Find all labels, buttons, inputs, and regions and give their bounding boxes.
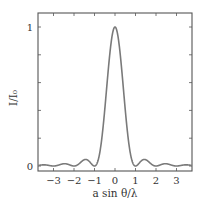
- x-tick-label: 0: [112, 175, 118, 186]
- y-axis-label: I/I₀: [7, 90, 19, 106]
- axis-ticks: [38, 13, 192, 171]
- x-tick-label: 1: [132, 175, 138, 186]
- x-tick-label: 2: [153, 175, 159, 186]
- y-tick-labels: 01: [27, 22, 33, 172]
- x-tick-label: −1: [87, 175, 102, 186]
- x-tick-label: 3: [173, 175, 179, 186]
- plot-frame: [38, 13, 192, 171]
- plot-border: [38, 13, 192, 171]
- y-tick-label: 0: [27, 161, 33, 172]
- y-tick-label: 1: [27, 22, 33, 33]
- intensity-curve: [38, 27, 192, 166]
- x-tick-labels: −3−2−10123: [46, 175, 180, 186]
- x-tick-label: −3: [46, 175, 61, 186]
- x-axis-label: a sin θ/λ: [93, 187, 138, 199]
- x-tick-label: −2: [67, 175, 82, 186]
- diffraction-chart: −3−2−10123 01 a sin θ/λ I/I₀: [0, 0, 198, 208]
